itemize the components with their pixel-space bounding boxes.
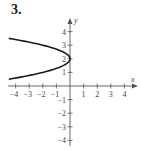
y-tick-label: 1 [62, 68, 66, 77]
plot: −4−3−2−11234−4−3−2−11234 x y [0, 0, 141, 150]
ticks: −4−3−2−11234−4−3−2−11234 [10, 28, 127, 146]
y-tick-label: −2 [57, 109, 66, 118]
x-tick-label: 1 [82, 90, 86, 99]
figure: 3. −4−3−2−11234−4−3−2−11234 x y [0, 0, 141, 150]
x-tick-label: 2 [95, 90, 99, 99]
x-axis-arrow-icon [132, 84, 138, 89]
y-axis-label: y [73, 16, 78, 25]
parabola-curve [9, 38, 70, 79]
y-tick-label: −3 [57, 123, 66, 132]
y-tick-label: 4 [62, 28, 66, 37]
x-tick-label: −2 [37, 90, 46, 99]
x-tick-label: 3 [109, 90, 113, 99]
x-tick-label: 4 [122, 90, 126, 99]
y-tick-label: 3 [62, 41, 66, 50]
x-tick-label: −4 [10, 90, 19, 99]
axes [8, 18, 138, 146]
x-axis-label: x [130, 75, 135, 84]
problem-number: 3. [11, 2, 22, 18]
y-axis-arrow-icon [68, 18, 73, 24]
y-tick-label: 2 [62, 55, 66, 64]
y-tick-label: −4 [57, 136, 66, 145]
x-tick-label: −3 [23, 90, 32, 99]
y-tick-label: −1 [57, 96, 66, 105]
